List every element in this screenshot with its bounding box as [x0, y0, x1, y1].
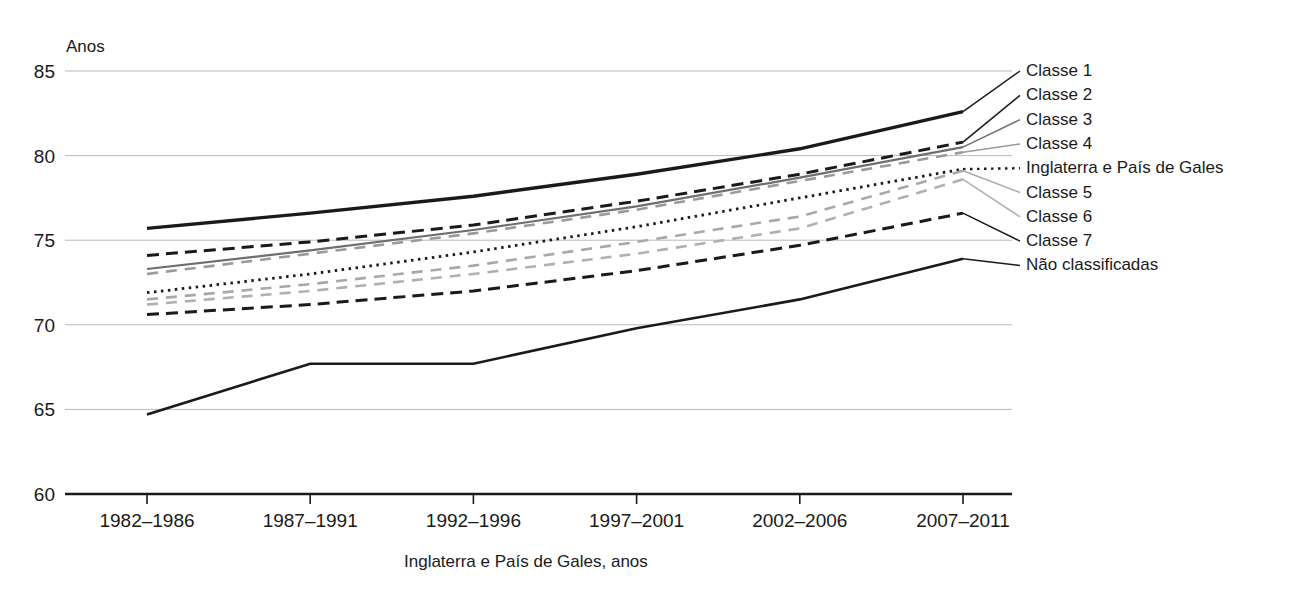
x-tick-label: 2007–2011 [916, 510, 1010, 531]
legend-label: Classe 3 [1026, 110, 1092, 129]
legend-label: Classe 2 [1026, 85, 1092, 104]
legend-label: Classe 5 [1026, 183, 1092, 202]
x-tick-label: 1987–1991 [263, 510, 358, 531]
y-tick-label: 70 [34, 315, 55, 336]
line-chart: 606570758085 1982–19861987–19911992–1996… [0, 0, 1289, 608]
y-tick-label: 85 [34, 61, 55, 82]
y-tick-label: 80 [34, 146, 55, 167]
y-tick-label: 65 [34, 399, 55, 420]
y-axis-unit-label: Anos [66, 37, 105, 56]
legend-label: Classe 1 [1026, 61, 1092, 80]
y-tick-label: 60 [34, 484, 55, 505]
legend-label: Classe 7 [1026, 231, 1092, 250]
legend-label: Inglaterra e País de Gales [1026, 158, 1224, 177]
x-axis-caption: Inglaterra e País de Gales, anos [404, 552, 648, 571]
chart-container: 606570758085 1982–19861987–19911992–1996… [0, 0, 1289, 608]
x-tick-label: 2002–2006 [752, 510, 847, 531]
legend-label: Classe 6 [1026, 207, 1092, 226]
x-tick-label: 1982–1986 [99, 510, 194, 531]
x-tick-label: 1997–2001 [589, 510, 684, 531]
legend-label: Classe 4 [1026, 134, 1092, 153]
x-tick-label: 1992–1996 [426, 510, 521, 531]
y-tick-label: 75 [34, 230, 55, 251]
legend-label: Não classificadas [1026, 255, 1158, 274]
